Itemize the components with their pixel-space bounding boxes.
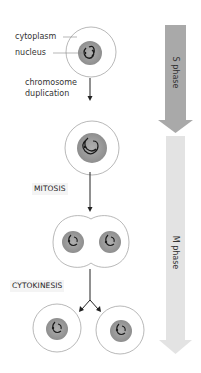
chromosome-duplication-label-2: duplication	[25, 89, 69, 99]
mitosis-label: MITOSIS	[32, 183, 68, 195]
cytokinesis-label: CYTOKINESIS	[10, 280, 64, 292]
chromosome-duplication-label-1: chromosome	[25, 78, 77, 88]
m-phase-label: M phase	[171, 233, 180, 273]
nucleus-icon	[62, 231, 84, 253]
s-phase-label: S phase	[171, 53, 180, 93]
daughter-cell-left	[33, 304, 81, 352]
nucleus-label: nucleus	[15, 48, 46, 58]
nucleus-icon	[46, 318, 68, 340]
arrow-mitosis	[88, 172, 93, 212]
daughter-cell-right	[96, 306, 144, 354]
cytoplasm-label: cytoplasm	[15, 32, 56, 42]
nucleus-icon	[99, 231, 121, 253]
arrow-cytokinesis	[79, 269, 101, 312]
cell-duplicated	[65, 121, 119, 175]
cell-dividing	[53, 216, 129, 268]
nucleus-icon	[110, 320, 132, 342]
cell-interphase	[66, 27, 116, 77]
nucleus-icon	[77, 133, 107, 163]
arrow-duplication	[88, 78, 93, 101]
